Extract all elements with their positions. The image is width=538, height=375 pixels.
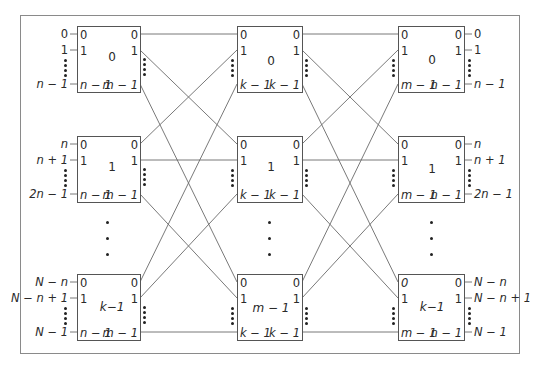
output-port-label: m − 1 bbox=[103, 327, 138, 339]
output-port-label: 1 bbox=[293, 293, 300, 305]
ellipsis-icon bbox=[468, 59, 472, 79]
output-port-label: 0 bbox=[455, 139, 462, 151]
external-output-label: 1 bbox=[474, 44, 481, 56]
stage1-switch-0: 0 1 n − 1 0 1 m − 1 0 bbox=[77, 26, 141, 93]
ellipsis-icon bbox=[64, 59, 68, 79]
output-port-label: k − 1 bbox=[269, 79, 300, 91]
switch-id: 0 bbox=[108, 51, 116, 63]
input-port-label: 0 bbox=[80, 277, 87, 289]
input-port-label: k − 1 bbox=[240, 189, 271, 201]
switch-id: k−1 bbox=[420, 301, 445, 313]
output-port-label: 0 bbox=[455, 277, 462, 289]
input-port-label: 0 bbox=[401, 277, 408, 289]
stage3-switch-0: 0 1 m − 1 0 1 n − 1 0 bbox=[398, 26, 465, 93]
switch-id: k−1 bbox=[100, 301, 125, 313]
output-port-label: n − 1 bbox=[430, 189, 462, 201]
input-port-label: 1 bbox=[240, 155, 247, 167]
external-output-label: N − n bbox=[474, 276, 507, 288]
external-output-label: N − 1 bbox=[474, 326, 507, 338]
external-input-label: N − n bbox=[35, 276, 68, 288]
output-port-label: 1 bbox=[455, 155, 462, 167]
external-input-label: 2n − 1 bbox=[29, 188, 68, 200]
external-output-label: n − 1 bbox=[474, 78, 506, 90]
external-output-label: n bbox=[474, 138, 481, 150]
ellipsis-dot-icon bbox=[430, 237, 433, 240]
stage2-switch-1: 0 1 k − 1 0 1 k − 1 1 bbox=[237, 136, 303, 203]
input-port-label: 1 bbox=[80, 155, 87, 167]
switch-id: 1 bbox=[428, 163, 436, 175]
ellipsis-icon bbox=[64, 169, 68, 189]
ellipsis-dot-icon bbox=[106, 253, 109, 256]
ellipsis-dot-icon bbox=[106, 221, 109, 224]
ellipsis-icon bbox=[231, 59, 235, 79]
stage2-switch-0: 0 1 k − 1 0 1 k − 1 0 bbox=[237, 26, 303, 93]
output-port-label: m − 1 bbox=[103, 189, 138, 201]
external-input-label: n bbox=[61, 138, 68, 150]
input-port-label: 1 bbox=[80, 45, 87, 57]
output-port-label: 1 bbox=[455, 293, 462, 305]
input-port-label: 0 bbox=[240, 277, 247, 289]
ellipsis-icon bbox=[305, 307, 309, 327]
output-port-label: 1 bbox=[131, 293, 138, 305]
external-input-label: n − 1 bbox=[36, 78, 68, 90]
external-output-label: N − n + 1 bbox=[474, 292, 531, 304]
output-port-label: 0 bbox=[455, 29, 462, 41]
ellipsis-dot-icon bbox=[106, 237, 109, 240]
external-input-label: N − n + 1 bbox=[11, 292, 68, 304]
ellipsis-icon bbox=[468, 169, 472, 189]
stage1-switch-k-1: 0 1 n − 1 0 1 m − 1 k−1 bbox=[77, 274, 141, 341]
ellipsis-icon bbox=[231, 169, 235, 189]
ellipsis-icon bbox=[468, 307, 472, 327]
output-port-label: n − 1 bbox=[430, 79, 462, 91]
stage2-switch-m-1: 0 1 k − 1 0 1 k − 1 m − 1 bbox=[237, 274, 303, 341]
switch-id: 1 bbox=[267, 161, 275, 173]
ellipsis-dot-icon bbox=[268, 253, 271, 256]
output-port-label: 0 bbox=[293, 277, 300, 289]
output-port-label: 1 bbox=[293, 45, 300, 57]
ellipsis-icon bbox=[64, 307, 68, 327]
ellipsis-dot-icon bbox=[430, 253, 433, 256]
switch-id: 1 bbox=[108, 161, 116, 173]
ellipsis-dot-icon bbox=[268, 237, 271, 240]
output-port-label: 1 bbox=[455, 45, 462, 57]
switch-id: m − 1 bbox=[252, 302, 289, 314]
stage3-switch-1: 0 1 m − 1 0 1 n − 1 1 bbox=[398, 136, 465, 203]
input-port-label: k − 1 bbox=[240, 79, 271, 91]
external-output-label: 2n − 1 bbox=[474, 188, 513, 200]
output-port-label: 0 bbox=[131, 277, 138, 289]
input-port-label: 1 bbox=[401, 155, 408, 167]
output-port-label: 0 bbox=[131, 29, 138, 41]
external-input-label: 1 bbox=[61, 44, 68, 56]
output-port-label: 1 bbox=[293, 155, 300, 167]
input-port-label: 0 bbox=[401, 139, 408, 151]
output-port-label: n − 1 bbox=[430, 327, 462, 339]
switch-id: 0 bbox=[428, 54, 436, 66]
external-output-label: 0 bbox=[474, 28, 481, 40]
ellipsis-icon bbox=[143, 168, 147, 188]
output-port-label: k − 1 bbox=[269, 189, 300, 201]
ellipsis-icon bbox=[231, 307, 235, 327]
ellipsis-icon bbox=[392, 307, 396, 327]
input-port-label: 1 bbox=[401, 293, 408, 305]
ellipsis-icon bbox=[392, 169, 396, 189]
ellipsis-icon bbox=[143, 306, 147, 326]
ellipsis-icon bbox=[392, 59, 396, 79]
output-port-label: m − 1 bbox=[103, 79, 138, 91]
ellipsis-dot-icon bbox=[268, 221, 271, 224]
external-input-label: n + 1 bbox=[36, 154, 68, 166]
input-port-label: 1 bbox=[401, 45, 408, 57]
input-port-label: 0 bbox=[240, 29, 247, 41]
ellipsis-icon bbox=[305, 169, 309, 189]
ellipsis-dot-icon bbox=[430, 221, 433, 224]
input-port-label: 0 bbox=[401, 29, 408, 41]
output-port-label: 1 bbox=[131, 45, 138, 57]
output-port-label: 0 bbox=[293, 139, 300, 151]
output-port-label: 0 bbox=[131, 139, 138, 151]
input-port-label: 1 bbox=[240, 293, 247, 305]
input-port-label: 0 bbox=[80, 29, 87, 41]
ellipsis-icon bbox=[143, 58, 147, 78]
external-input-label: N − 1 bbox=[35, 326, 68, 338]
external-output-label: n + 1 bbox=[474, 154, 506, 166]
stage3-switch-k-1: 0 1 m − 1 0 1 n − 1 k−1 bbox=[398, 274, 465, 341]
external-input-label: 0 bbox=[61, 28, 68, 40]
